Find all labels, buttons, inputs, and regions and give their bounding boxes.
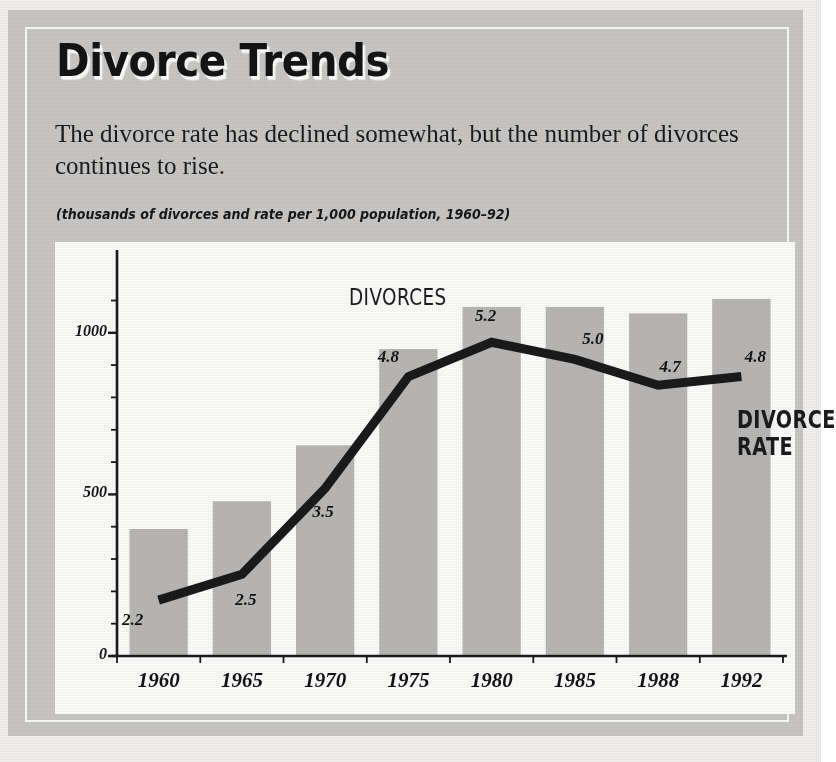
y-tick-label: 0 bbox=[37, 645, 107, 663]
line-point-label: 4.7 bbox=[647, 357, 693, 377]
gray-card: Divorce Trends The divorce rate has decl… bbox=[8, 10, 803, 736]
series-label-line: RATE bbox=[737, 434, 836, 461]
x-tick-label: 1965 bbox=[199, 668, 285, 693]
y-tick-label: 500 bbox=[37, 483, 107, 501]
series-label-divorce-rate: DIVORCERATE bbox=[737, 407, 836, 461]
line-point-label: 2.5 bbox=[223, 590, 269, 610]
x-tick-label: 1975 bbox=[365, 668, 451, 693]
page-title: Divorce Trends bbox=[56, 38, 389, 84]
x-tick-label: 1992 bbox=[698, 668, 784, 693]
x-tick-label: 1980 bbox=[449, 668, 535, 693]
y-tick-label: 1000 bbox=[37, 322, 107, 340]
x-tick-label: 1970 bbox=[282, 668, 368, 693]
line-point-label: 2.2 bbox=[110, 610, 156, 630]
line-point-label: 5.0 bbox=[570, 329, 616, 349]
series-label-divorces: DIVORCES bbox=[349, 284, 447, 310]
chart-plot-area: 05001000 1960196519701975198019851988199… bbox=[55, 242, 795, 714]
chart-canvas bbox=[55, 242, 795, 714]
bar bbox=[296, 445, 354, 656]
chart-caption: (thousands of divorces and rate per 1,00… bbox=[56, 206, 510, 222]
x-tick-label: 1988 bbox=[615, 668, 701, 693]
deck-text: The divorce rate has declined somewhat, … bbox=[55, 118, 745, 182]
line-point-label: 4.8 bbox=[732, 347, 778, 367]
combo-chart bbox=[55, 242, 795, 714]
line-point-label: 5.2 bbox=[463, 306, 509, 326]
x-tick-label: 1985 bbox=[532, 668, 618, 693]
bar bbox=[379, 349, 437, 656]
x-tick-label: 1960 bbox=[116, 668, 202, 693]
series-label-line: DIVORCE bbox=[737, 407, 836, 434]
line-point-label: 3.5 bbox=[300, 502, 346, 522]
line-point-label: 4.8 bbox=[365, 347, 411, 367]
bar bbox=[463, 307, 521, 656]
